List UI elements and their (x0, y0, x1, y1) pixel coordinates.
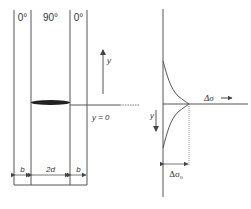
width-label-b-right: b (76, 165, 81, 174)
delta-sigma-o-label: Δσo (169, 169, 183, 180)
transverse-crack (31, 100, 70, 105)
ply-label-right: 0° (74, 12, 84, 23)
y-axis-label-laminate: y (106, 56, 112, 65)
delta-sigma-axis-label: Δσ (203, 93, 214, 103)
y-axis-label-plot: y (149, 111, 155, 120)
width-label-2d: 2d (45, 165, 55, 174)
y-zero-label: y = 0 (91, 113, 110, 122)
laminate-schematic: 0° 90° 0° y = 0 y b 2d b (14, 10, 140, 185)
stress-distribution-plot: Δσo Δσ y (149, 9, 248, 197)
crack-stress-diagram: 0° 90° 0° y = 0 y b 2d b Δσo Δσ (0, 0, 251, 209)
ply-label-left: 0° (18, 12, 28, 23)
width-dimension-row: b 2d b (15, 165, 86, 175)
width-label-b-left: b (20, 165, 25, 174)
ply-label-center: 90° (43, 12, 58, 23)
